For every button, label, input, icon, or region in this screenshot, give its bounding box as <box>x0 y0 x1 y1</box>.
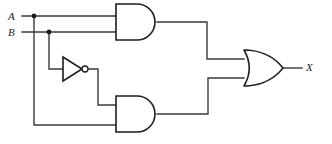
wire-and-bottom-to-or <box>157 78 244 114</box>
circuit-schematic-canvas <box>0 0 332 144</box>
not-gate-triangle <box>63 57 82 81</box>
logic-circuit-diagram: A B X <box>0 0 332 144</box>
wire-not-to-and-bottom <box>88 69 116 105</box>
and-gate-bottom[interactable] <box>116 96 155 132</box>
not-gate-inverter[interactable] <box>63 57 88 81</box>
input-label-b: B <box>8 27 15 38</box>
wire-and-top-to-or <box>157 22 244 59</box>
and-gate-bottom-body <box>116 96 155 132</box>
junction-dot-a <box>32 14 37 19</box>
junction-dot-b <box>47 30 52 35</box>
or-gate-output[interactable] <box>244 50 283 86</box>
wire-b-branch-to-not <box>49 32 63 69</box>
output-label-x: X <box>306 62 313 73</box>
or-gate-body <box>244 50 283 86</box>
input-label-a: A <box>8 11 15 22</box>
and-gate-top[interactable] <box>116 4 155 40</box>
and-gate-top-body <box>116 4 155 40</box>
not-gate-bubble-icon <box>82 66 88 72</box>
